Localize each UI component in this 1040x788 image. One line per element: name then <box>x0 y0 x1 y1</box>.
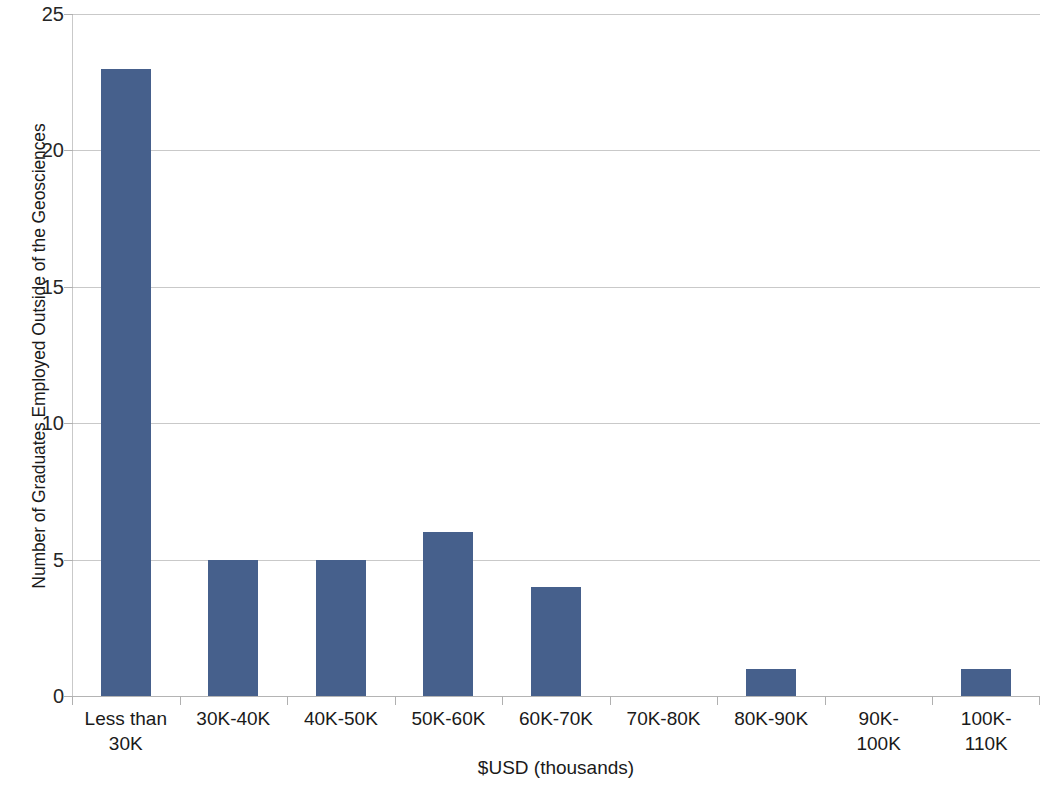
x-axis-tick-label: 80K-90K <box>717 706 825 731</box>
gridline <box>72 287 1040 288</box>
y-axis-tick-label: 15 <box>6 277 64 297</box>
y-axis-tick-label: 0 <box>6 686 64 706</box>
x-axis-tick-label: 50K-60K <box>395 706 503 731</box>
bar <box>423 532 473 696</box>
bar <box>316 560 366 696</box>
x-axis-tick-label: 60K-70K <box>502 706 610 731</box>
plot-area <box>72 14 1040 696</box>
bar <box>101 69 151 696</box>
x-axis-tick-label-line1: 60K-70K <box>519 708 593 729</box>
bar-chart: Number of Graduates Employed Outside of … <box>0 0 1040 788</box>
x-axis-title: $USD (thousands) <box>72 757 1040 779</box>
x-axis-tick-mark <box>610 696 611 705</box>
gridline <box>72 696 1040 697</box>
x-axis-tick-label-line1: Less than <box>85 708 167 729</box>
y-axis-tick-mark <box>64 150 73 151</box>
x-axis-tick-label-line2: 100K <box>825 731 933 756</box>
gridline <box>72 423 1040 424</box>
y-axis-tick-mark <box>64 423 73 424</box>
x-axis-tick-label: 40K-50K <box>287 706 395 731</box>
bar <box>746 669 796 696</box>
x-axis-tick-label: 70K-80K <box>610 706 718 731</box>
y-axis-tick-label: 10 <box>6 413 64 433</box>
x-axis-tick-label-line1: 90K- <box>859 708 899 729</box>
x-axis-tick-label-line1: 40K-50K <box>304 708 378 729</box>
x-axis-tick-label-line2: 30K <box>72 731 180 756</box>
gridline <box>72 14 1040 15</box>
x-axis-tick-label: 100K-110K <box>932 706 1040 756</box>
x-axis-tick-label-line2: 110K <box>932 731 1040 756</box>
y-axis-tick-label: 20 <box>6 140 64 160</box>
x-axis-tick-mark <box>717 696 718 705</box>
x-axis-tick-label-line1: 30K-40K <box>196 708 270 729</box>
x-axis-tick-label-line1: 100K- <box>961 708 1012 729</box>
x-axis-tick-label-line1: 80K-90K <box>734 708 808 729</box>
bar <box>961 669 1011 696</box>
x-axis-tick-label: Less than30K <box>72 706 180 756</box>
x-axis-tick-label: 30K-40K <box>180 706 288 731</box>
x-axis-tick-mark <box>180 696 181 705</box>
x-axis-tick-mark <box>825 696 826 705</box>
x-axis-tick-mark <box>932 696 933 705</box>
y-axis-tick-mark <box>64 560 73 561</box>
y-axis-tick-labels: 0510152025 <box>0 0 64 788</box>
x-axis-tick-label-line1: 70K-80K <box>627 708 701 729</box>
y-axis-tick-label: 25 <box>6 4 64 24</box>
x-axis-tick-mark <box>287 696 288 705</box>
y-axis-tick-mark <box>64 14 73 15</box>
y-axis-tick-mark <box>64 287 73 288</box>
x-axis-tick-mark <box>502 696 503 705</box>
gridline <box>72 150 1040 151</box>
x-axis-tick-mark <box>72 696 73 705</box>
x-axis-tick-label-line1: 50K-60K <box>411 708 485 729</box>
bar <box>531 587 581 696</box>
x-axis-tick-mark <box>395 696 396 705</box>
bar <box>208 560 258 696</box>
y-axis-tick-label: 5 <box>6 550 64 570</box>
x-axis-tick-label: 90K-100K <box>825 706 933 756</box>
x-axis-tick-labels: Less than30K30K-40K40K-50K50K-60K60K-70K… <box>0 706 1040 762</box>
